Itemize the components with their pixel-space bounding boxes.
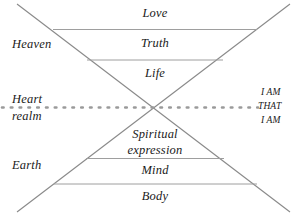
- hourglass-diagram: Love Truth Life Spiritual expression Min…: [0, 0, 302, 216]
- label-that: THAT: [258, 102, 281, 112]
- label-heaven: Heaven: [12, 38, 51, 51]
- label-mind: Mind: [141, 164, 168, 177]
- label-expression: expression: [128, 144, 183, 157]
- label-life: Life: [145, 67, 165, 80]
- label-body: Body: [142, 190, 168, 203]
- label-earth: Earth: [12, 159, 41, 172]
- label-heart: Heart: [12, 93, 42, 106]
- label-realm: realm: [12, 110, 42, 123]
- label-love: Love: [142, 7, 167, 20]
- label-truth: Truth: [141, 37, 169, 50]
- diagram-lines: [0, 0, 302, 216]
- label-i-am-lower: I AM: [261, 116, 280, 126]
- label-i-am-upper: I AM: [261, 88, 280, 98]
- label-spiritual: Spiritual: [132, 128, 178, 141]
